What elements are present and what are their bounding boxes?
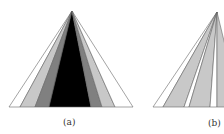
caption-b: (b) bbox=[208, 118, 221, 128]
triangle-figure-a bbox=[9, 11, 133, 107]
figure-canvas bbox=[0, 0, 224, 134]
band-5 bbox=[217, 12, 224, 107]
triangle-figure-b bbox=[153, 12, 224, 107]
caption-a: (a) bbox=[63, 117, 75, 127]
